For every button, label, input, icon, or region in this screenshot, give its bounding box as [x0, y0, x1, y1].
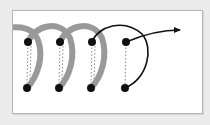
rung-2 [59, 44, 60, 86]
node-bottom-3 [87, 84, 95, 92]
rung-3 [91, 44, 92, 86]
node-top-1 [24, 38, 32, 46]
node-top-4 [122, 38, 130, 46]
node-bottom-1 [23, 84, 31, 92]
arrow-icon [126, 30, 180, 42]
node-top-3 [88, 38, 96, 46]
rung-4 [125, 44, 126, 86]
helix-diagram [0, 0, 210, 125]
node-bottom-2 [55, 84, 63, 92]
gray-ribbon [0, 26, 104, 88]
node-bottom-4 [121, 84, 129, 92]
node-top-2 [56, 38, 64, 46]
rung-1 [27, 44, 28, 86]
